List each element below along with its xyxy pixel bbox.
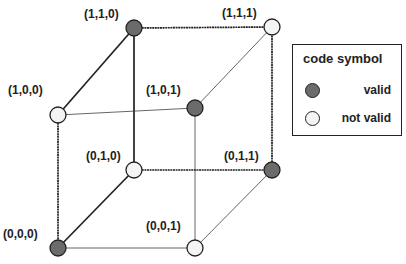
edge-001-011 <box>195 170 272 248</box>
vertex-010 <box>126 162 142 178</box>
legend: code symbol valid not valid <box>292 44 402 136</box>
label-011: (0,1,1) <box>224 149 259 163</box>
edge-110-111 <box>134 27 272 28</box>
vertex-111 <box>264 19 280 35</box>
legend-label-not-valid: not valid <box>342 111 391 125</box>
vertex-110 <box>126 20 142 36</box>
label-110: (1,1,0) <box>84 7 119 21</box>
not-valid-dot-icon <box>305 111 320 126</box>
legend-label-valid: valid <box>364 83 391 97</box>
vertex-000 <box>50 240 66 256</box>
label-101: (1,0,1) <box>146 83 181 97</box>
label-010: (0,1,0) <box>86 149 121 163</box>
legend-title: code symbol <box>303 51 382 66</box>
legend-item-not-valid: not valid <box>293 109 401 129</box>
label-000: (0,0,0) <box>3 227 38 241</box>
vertex-011 <box>264 162 280 178</box>
label-001: (0,0,1) <box>146 219 181 233</box>
label-111: (1,1,1) <box>222 6 257 20</box>
edge-101-111 <box>195 27 272 108</box>
label-100: (1,0,0) <box>8 83 43 97</box>
edge-000-010 <box>58 170 134 248</box>
valid-dot-icon <box>305 83 320 98</box>
vertex-101 <box>187 100 203 116</box>
legend-item-valid: valid <box>293 81 401 101</box>
vertex-001 <box>187 240 203 256</box>
edge-110-100 <box>58 28 134 115</box>
vertex-100 <box>50 107 66 123</box>
edge-100-101 <box>58 108 195 115</box>
